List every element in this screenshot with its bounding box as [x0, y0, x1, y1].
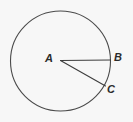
vertex-label-b: B: [114, 52, 122, 63]
geometry-figure: A B C: [0, 0, 133, 122]
vertex-label-a: A: [45, 53, 53, 64]
radius-segment-ab: [61, 60, 111, 61]
vertex-label-c: C: [107, 84, 115, 95]
radius-segment-ac: [61, 61, 106, 87]
